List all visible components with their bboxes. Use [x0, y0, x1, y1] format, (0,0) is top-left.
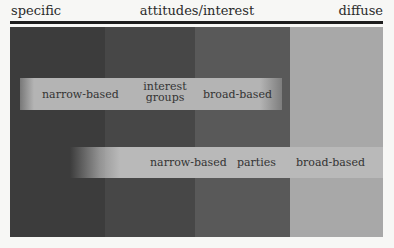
- interest-groups-broad-label: broad-based: [203, 89, 272, 100]
- band-specific: [10, 27, 105, 237]
- header-rule: [10, 21, 383, 24]
- parties-bar: narrow-based parties broad-based: [70, 147, 383, 178]
- header-right-label: diffuse: [339, 3, 383, 18]
- parties-narrow-label: narrow-based: [150, 157, 227, 168]
- band-mid-specific: [105, 27, 195, 237]
- diagram-panel: narrow-based interest groups broad-based…: [10, 27, 383, 237]
- band-mid-diffuse: [195, 27, 290, 237]
- interest-groups-bar: narrow-based interest groups broad-based: [20, 78, 282, 110]
- header-center-label: attitudes/interest: [0, 3, 394, 18]
- interest-groups-narrow-label: narrow-based: [42, 89, 119, 100]
- parties-broad-label: broad-based: [296, 157, 365, 168]
- parties-center-label: parties: [237, 157, 276, 168]
- band-diffuse: [290, 27, 383, 237]
- interest-groups-center-label: interest groups: [140, 81, 190, 103]
